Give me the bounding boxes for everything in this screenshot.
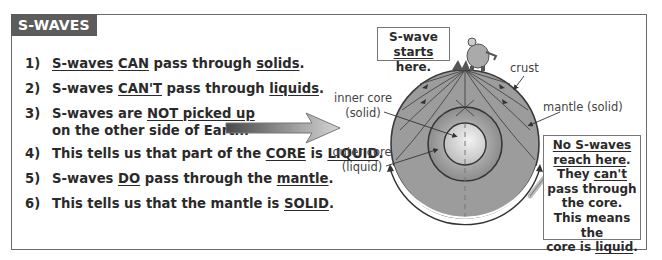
cartoon-character-icon	[452, 38, 496, 71]
outer-core-label: outer core (liquid)	[332, 145, 392, 175]
start-callout-line1: S-wave	[378, 30, 449, 45]
cant-word: can't	[594, 167, 627, 181]
earth-cross-section	[391, 70, 539, 218]
callout-line2: reach here.	[544, 153, 640, 168]
callout-line5: the core.	[544, 196, 640, 211]
start-callout-line2: starts here.	[378, 45, 449, 75]
inner-core-state: (solid)	[334, 106, 392, 121]
right-arrow-icon	[226, 113, 340, 143]
liquid-word: liquid	[595, 240, 633, 254]
callout-line3: They can't	[544, 167, 640, 182]
callout-line7: core is liquid.	[544, 240, 640, 255]
outer-core-state: (liquid)	[332, 160, 392, 175]
callout-line3-text: They	[557, 167, 594, 181]
crust-label: crust	[510, 61, 539, 76]
inner-core-text: inner core	[334, 91, 392, 106]
callout-line6: This means the	[544, 211, 640, 240]
mantle-label: mantle (solid)	[543, 100, 623, 115]
inner-core-label: inner core (solid)	[334, 91, 392, 121]
callout-line1: No S-waves	[544, 138, 640, 153]
callout-line2-end: .	[626, 153, 631, 167]
callout-line7-end: .	[633, 240, 638, 254]
here-word: here.	[396, 60, 431, 74]
shadow-zone-callout: No S-waves reach here. They can't pass t…	[543, 135, 641, 240]
start-callout: S-wave starts here.	[377, 27, 450, 61]
callout-line7-text: core is	[546, 240, 595, 254]
starts-word: starts	[394, 45, 434, 59]
callout-line4: pass through	[544, 182, 640, 197]
callout-line2-text: reach here	[553, 153, 626, 167]
outer-core-text: outer core	[332, 145, 392, 160]
